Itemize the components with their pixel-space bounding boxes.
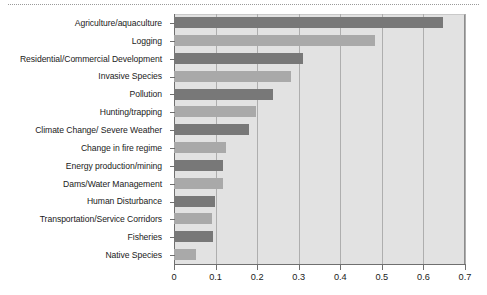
bar-row xyxy=(174,14,465,32)
bar[interactable] xyxy=(174,35,375,46)
y-axis-tick xyxy=(170,130,175,131)
bar[interactable] xyxy=(174,89,273,100)
y-axis-tick xyxy=(170,94,175,95)
bar[interactable] xyxy=(174,160,223,171)
category-label: Agriculture/aquaculture xyxy=(0,14,168,32)
y-axis-tick xyxy=(170,184,175,185)
category-label: Invasive Species xyxy=(0,68,168,86)
category-label: Fisheries xyxy=(0,228,168,246)
y-axis-tick xyxy=(170,77,175,78)
bar-row xyxy=(174,175,465,193)
bar[interactable] xyxy=(174,106,256,117)
bar-row xyxy=(174,228,465,246)
x-axis-label: 0 xyxy=(154,272,194,282)
category-label: Energy production/mining xyxy=(0,157,168,175)
y-axis-tick xyxy=(170,112,175,113)
bar-row xyxy=(174,68,465,86)
category-label: Human Disturbance xyxy=(0,192,168,210)
category-label: Hunting/trapping xyxy=(0,103,168,121)
bar[interactable] xyxy=(174,142,226,153)
x-axis-tick xyxy=(299,265,300,270)
category-label: Residential/Commercial Development xyxy=(0,50,168,68)
bar-row xyxy=(174,85,465,103)
bar[interactable] xyxy=(174,71,291,82)
category-label: Logging xyxy=(0,32,168,50)
category-label: Change in fire regime xyxy=(0,139,168,157)
x-axis-line xyxy=(174,264,466,265)
top-dotted-divider xyxy=(8,4,479,5)
y-axis-tick xyxy=(170,166,175,167)
category-label: Climate Change/ Severe Weather xyxy=(0,121,168,139)
x-axis-tick xyxy=(257,265,258,270)
bars-group xyxy=(174,14,465,264)
bar-row xyxy=(174,157,465,175)
x-axis-label: 0.3 xyxy=(279,272,319,282)
y-axis-tick xyxy=(170,41,175,42)
x-axis-label: 0.2 xyxy=(237,272,277,282)
bar[interactable] xyxy=(174,53,303,64)
bar[interactable] xyxy=(174,231,213,242)
y-axis-tick xyxy=(170,237,175,238)
y-axis-tick xyxy=(170,23,175,24)
y-axis-tick xyxy=(170,148,175,149)
x-axis-label: 0.6 xyxy=(403,272,443,282)
bar-row xyxy=(174,139,465,157)
category-label: Pollution xyxy=(0,85,168,103)
category-label: Transportation/Service Corridors xyxy=(0,210,168,228)
bar[interactable] xyxy=(174,124,249,135)
bar-row xyxy=(174,192,465,210)
bar-row xyxy=(174,210,465,228)
y-axis-tick xyxy=(170,202,175,203)
bar[interactable] xyxy=(174,249,196,260)
bar-chart: Agriculture/aquacultureLoggingResidentia… xyxy=(0,0,487,295)
bar[interactable] xyxy=(174,178,223,189)
bar-row xyxy=(174,121,465,139)
bar-row xyxy=(174,103,465,121)
gridline xyxy=(465,14,466,264)
y-axis-tick xyxy=(170,59,175,60)
x-axis-tick xyxy=(216,265,217,270)
y-axis-tick xyxy=(170,255,175,256)
x-axis-tick xyxy=(423,265,424,270)
x-axis-tick xyxy=(340,265,341,270)
bar[interactable] xyxy=(174,213,212,224)
bar-row xyxy=(174,32,465,50)
bar[interactable] xyxy=(174,17,443,28)
x-axis-tick xyxy=(174,265,175,270)
x-axis-label: 0.4 xyxy=(320,272,360,282)
bar-row xyxy=(174,246,465,264)
bar-row xyxy=(174,50,465,68)
x-axis-label: 0.1 xyxy=(196,272,236,282)
x-axis-label: 0.5 xyxy=(362,272,402,282)
category-axis-labels: Agriculture/aquacultureLoggingResidentia… xyxy=(0,14,168,264)
y-axis-tick xyxy=(170,219,175,220)
bar[interactable] xyxy=(174,196,215,207)
category-label: Dams/Water Management xyxy=(0,175,168,193)
x-axis-label: 0.7 xyxy=(445,272,485,282)
category-label: Native Species xyxy=(0,246,168,264)
x-axis-tick xyxy=(465,265,466,270)
x-axis-tick xyxy=(382,265,383,270)
